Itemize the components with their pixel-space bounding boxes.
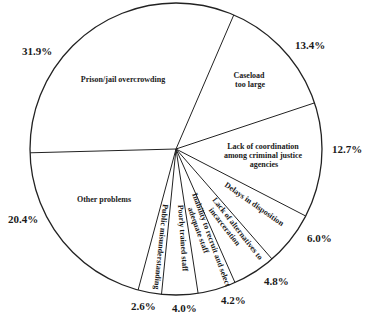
label-caseload: Caseload too large [233,71,266,89]
label-public: Public misunderstanding [152,204,170,290]
pct-coordination: 12.7% [332,143,362,155]
pct-delays: 6.0% [307,232,332,244]
pct-poorly: 4.0% [172,302,197,314]
label-poorly: Poorly trained staff [176,205,190,272]
label-other: Other problems [77,195,131,204]
label-prison: Prison/jail overcrowding [81,75,165,84]
slice-divider [176,15,234,149]
pct-prison: 31.9% [22,45,52,57]
pie-chart: Prison/jail overcrowding Caseload too la… [0,0,369,323]
pct-other: 20.4% [8,213,38,225]
pct-caseload: 13.4% [295,39,325,51]
pct-alternatives: 4.8% [264,275,289,287]
slice-divider [30,149,176,153]
pct-inability: 4.2% [221,294,246,306]
pct-public: 2.6% [131,300,156,312]
label-coordination: Lack of coordination among criminal just… [224,142,304,169]
